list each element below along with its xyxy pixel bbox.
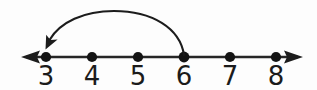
tick-label-5: 5 xyxy=(130,61,147,90)
tick-label-4: 4 xyxy=(84,61,101,90)
tick-label-6: 6 xyxy=(176,61,193,90)
tick-label-3: 3 xyxy=(38,61,55,90)
tick-label-8: 8 xyxy=(268,61,285,90)
tick-label-7: 7 xyxy=(222,61,239,90)
number-line-figure: 3 4 5 6 7 8 xyxy=(0,0,317,90)
jump-arc-6-to-3 xyxy=(50,11,185,55)
number-line-canvas: 3 4 5 6 7 8 xyxy=(0,0,317,90)
